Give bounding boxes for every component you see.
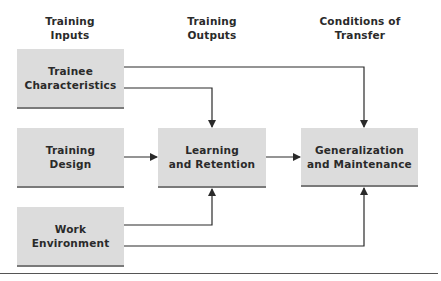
- arrow-trainee-to-learning: [124, 88, 212, 127]
- node-trainee-characteristics: Trainee Characteristics: [17, 49, 124, 109]
- node-label: Training: [46, 143, 96, 157]
- node-label: Generalization: [307, 143, 412, 157]
- arrow-work-to-generalization: [124, 188, 364, 246]
- node-label: and Retention: [169, 157, 255, 171]
- node-label: Characteristics: [24, 78, 116, 92]
- node-training-design: Training Design: [17, 128, 124, 188]
- node-label: Environment: [32, 236, 110, 250]
- node-label: Design: [46, 157, 96, 171]
- node-label: Trainee: [24, 64, 116, 78]
- arrow-work-to-learning: [124, 189, 212, 225]
- node-generalization-and-maintenance: Generalization and Maintenance: [301, 128, 418, 187]
- node-work-environment: Work Environment: [17, 207, 124, 267]
- node-label: and Maintenance: [307, 157, 412, 171]
- node-label: Work: [32, 222, 110, 236]
- bottom-divider-line: [0, 273, 438, 274]
- node-label: Learning: [169, 143, 255, 157]
- node-learning-and-retention: Learning and Retention: [158, 128, 266, 188]
- arrow-trainee-to-generalization: [124, 67, 364, 127]
